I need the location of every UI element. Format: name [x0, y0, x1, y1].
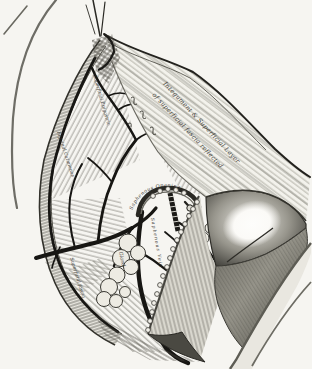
- inguinal-dissection-engraving: Integument & Superficial Layer of superf…: [0, 0, 312, 369]
- lymph-gland: [97, 292, 112, 307]
- anatomical-engraving-canvas: Integument & Superficial Layer of superf…: [0, 0, 312, 369]
- lymph-gland: [131, 246, 146, 261]
- lymph-gland: [110, 295, 123, 308]
- lymph-gland: [120, 287, 131, 298]
